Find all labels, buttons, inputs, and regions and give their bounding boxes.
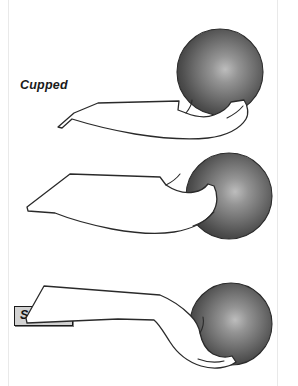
figure-straight: Straight xyxy=(0,150,298,260)
figure-broken-wrist: Broken Wrist xyxy=(0,255,298,386)
hand-holding-ball-cupped-icon xyxy=(0,0,298,150)
hand-holding-ball-broken-wrist-icon xyxy=(0,255,298,386)
ball-shape xyxy=(177,29,263,115)
figure-label-cupped: Cupped xyxy=(20,79,68,92)
diagram-page: Cupped Straight xyxy=(0,0,298,386)
figure-cupped: Cupped xyxy=(0,0,298,150)
hand-holding-ball-straight-icon xyxy=(0,150,298,260)
